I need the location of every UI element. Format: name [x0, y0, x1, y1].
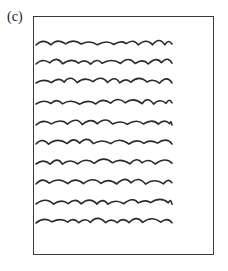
wavy-text-line	[36, 59, 172, 64]
wavy-text-line	[36, 78, 172, 83]
wavy-text-line	[36, 199, 172, 204]
wavy-text-lines	[0, 0, 228, 271]
wavy-text-line	[36, 159, 172, 164]
wavy-text-line	[36, 120, 172, 125]
wavy-text-line	[36, 179, 172, 184]
wavy-text-line	[36, 40, 172, 45]
wavy-text-line	[36, 139, 172, 144]
wavy-text-line	[36, 99, 172, 104]
wavy-text-line	[36, 218, 172, 223]
